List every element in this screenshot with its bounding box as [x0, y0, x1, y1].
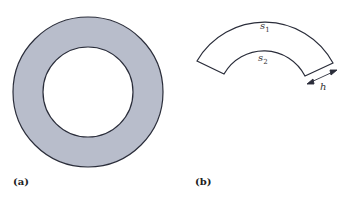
annulus-inner-circle — [43, 47, 133, 137]
inner-arc-subscript: 2 — [263, 58, 267, 66]
outer-arc-subscript: 1 — [265, 26, 269, 34]
outer-arc-label: s1 — [260, 20, 270, 34]
figure-a-label: (a) — [13, 176, 29, 187]
figure-b-label: (b) — [195, 176, 211, 187]
annulus-shape — [13, 17, 163, 167]
width-label: h — [320, 81, 326, 92]
diagram-canvas — [0, 0, 347, 198]
inner-arc-label: s2 — [258, 52, 268, 66]
